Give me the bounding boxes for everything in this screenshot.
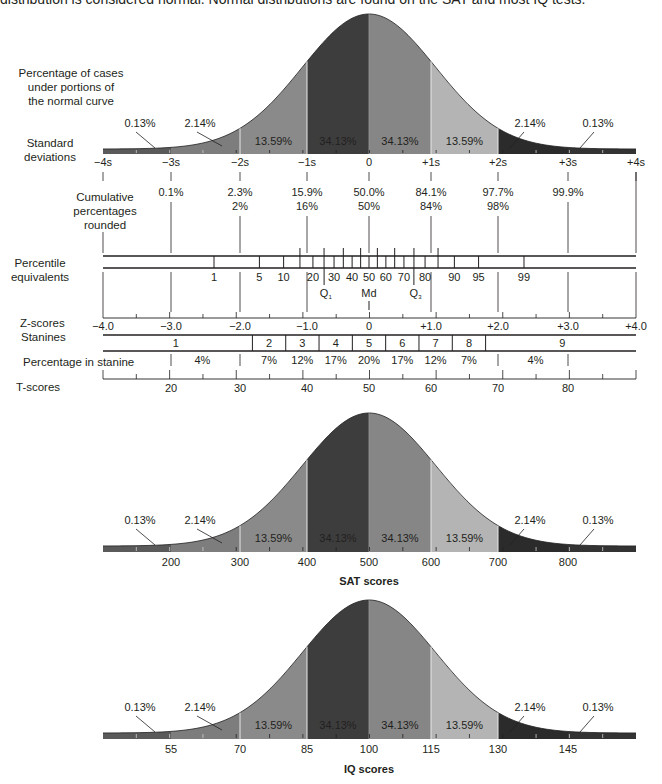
sd-label: +4s — [627, 156, 646, 168]
percentile-value: 1 — [211, 271, 217, 283]
cumulative-value: 15.9% — [291, 186, 322, 198]
sat-tick-label: 500 — [360, 556, 378, 568]
band-label: 13.59% — [446, 135, 484, 147]
sat-title: SAT scores — [339, 575, 399, 587]
band-label-outer: 2.14% — [514, 117, 545, 129]
cumulative-rounded: 50% — [358, 200, 380, 212]
stanine-number: 2 — [266, 337, 272, 349]
label-line: Cumulative — [70, 190, 140, 204]
cumulative-rounded: 16% — [296, 200, 318, 212]
sd-label: +1s — [422, 156, 441, 168]
subscript: 3 — [418, 294, 422, 300]
band-label-outer: 2.14% — [514, 701, 545, 713]
band-label-outer: 2.14% — [184, 514, 215, 526]
zscore-value: 0 — [366, 320, 372, 332]
percentile-value: 90 — [448, 271, 460, 283]
stanine-percentage: 7% — [261, 354, 277, 366]
stanine-percentage: 4% — [528, 354, 544, 366]
band-label-outer: 0.13% — [582, 117, 613, 129]
sat-tick-label: 400 — [298, 556, 316, 568]
stanine-percentage: 7% — [461, 354, 477, 366]
band-label-outer: 0.13% — [124, 701, 155, 713]
sd-label: +2s — [489, 156, 508, 168]
percentile-value: 95 — [472, 271, 484, 283]
iq-tick-label: 145 — [559, 743, 577, 755]
percentile-value: 70 — [398, 271, 410, 283]
label-percentage-cases: Percentage of cases under portions of th… — [16, 66, 126, 108]
zscore-value: +3.0 — [557, 320, 579, 332]
percentile-value: 30 — [328, 271, 340, 283]
label-line: deviations — [20, 150, 80, 164]
stanine-number: 8 — [466, 337, 472, 349]
cumulative-rounded: 98% — [487, 200, 509, 212]
label-tscores: T-scores — [16, 380, 60, 394]
label-line: Percentile — [8, 256, 72, 270]
curve-segment — [498, 526, 568, 552]
label-line: Stanines — [21, 331, 66, 343]
iq-tick-label: 130 — [489, 743, 507, 755]
label-percentile: Percentile equivalents — [8, 256, 72, 284]
leader-line — [580, 716, 594, 732]
sat-tick-label: 200 — [162, 556, 180, 568]
normal-distribution-diagram: 13.59%34.13%34.13%13.59%0.13%2.14%2.14%0… — [0, 0, 662, 784]
leader-line — [136, 716, 155, 732]
tscore-value: 50 — [363, 382, 375, 394]
cumulative-value: 84.1% — [415, 186, 446, 198]
label-line: T-scores — [16, 381, 60, 393]
curve-segment — [307, 14, 369, 154]
sd-label: −3s — [162, 156, 181, 168]
band-label: 13.59% — [446, 532, 484, 544]
stanine-percentage: 17% — [391, 354, 413, 366]
tscore-value: 80 — [562, 382, 574, 394]
iq-tick-label: 85 — [301, 743, 313, 755]
label-line: the normal curve — [16, 94, 126, 108]
band-label-outer: 0.13% — [582, 701, 613, 713]
tscore-value: 60 — [425, 382, 437, 394]
cumulative-value: 0.1% — [158, 186, 183, 198]
label-zscores: Z-scores — [20, 316, 65, 330]
band-label-outer: 2.14% — [184, 117, 215, 129]
label-line: Z-scores — [20, 317, 65, 329]
label-line: Percentage in stanine — [23, 356, 134, 368]
sd-label: 0 — [366, 156, 372, 168]
band-label-outer: 0.13% — [582, 514, 613, 526]
cumulative-row: 0.1%2.3%15.9%50.0%84.1%97.7%99.9%2%16%50… — [103, 172, 636, 253]
band-label-outer: 2.14% — [514, 514, 545, 526]
zscore-row: −4.0−3.0−2.0−1.00+1.0+2.0+3.0+4.0 — [92, 312, 647, 332]
curve-segment — [171, 713, 240, 739]
band-label-outer: 2.14% — [184, 701, 215, 713]
iq-tick-label: 100 — [360, 743, 378, 755]
sat-tick-label: 600 — [422, 556, 440, 568]
stanine-percentage: 4% — [194, 354, 210, 366]
percentile-value: 50 — [363, 271, 375, 283]
zscore-value: −1.0 — [296, 320, 318, 332]
percentile-value: 20 — [307, 271, 319, 283]
leader-line — [136, 529, 155, 545]
zscore-value: −2.0 — [229, 320, 251, 332]
stanine-number: 1 — [173, 337, 179, 349]
cumulative-rounded: 84% — [420, 200, 442, 212]
percentile-value: 5 — [256, 271, 262, 283]
label-line: rounded — [70, 218, 140, 232]
zscore-value: −4.0 — [92, 320, 114, 332]
stanine-number: 7 — [433, 337, 439, 349]
sat-tick-label: 700 — [489, 556, 507, 568]
stanine-percentage: 12% — [291, 354, 313, 366]
cumulative-value: 2.3% — [227, 186, 252, 198]
curve-segment — [498, 713, 568, 739]
cumulative-rounded: 2% — [232, 200, 248, 212]
band-label: 13.59% — [446, 719, 484, 731]
sd-label: −2s — [231, 156, 250, 168]
percentile-value: 60 — [380, 271, 392, 283]
zscore-value: +2.0 — [487, 320, 509, 332]
label-line: equivalents — [8, 270, 72, 284]
percentile-value: 80 — [419, 271, 431, 283]
sd-label: +3s — [559, 156, 578, 168]
stanine-number: 3 — [299, 337, 305, 349]
percentile-value: 10 — [277, 271, 289, 283]
tscore-value: 20 — [165, 382, 177, 394]
band-label: 34.13% — [381, 135, 419, 147]
band-label: 34.13% — [319, 135, 357, 147]
leader-line — [580, 132, 594, 148]
band-label: 13.59% — [255, 135, 293, 147]
